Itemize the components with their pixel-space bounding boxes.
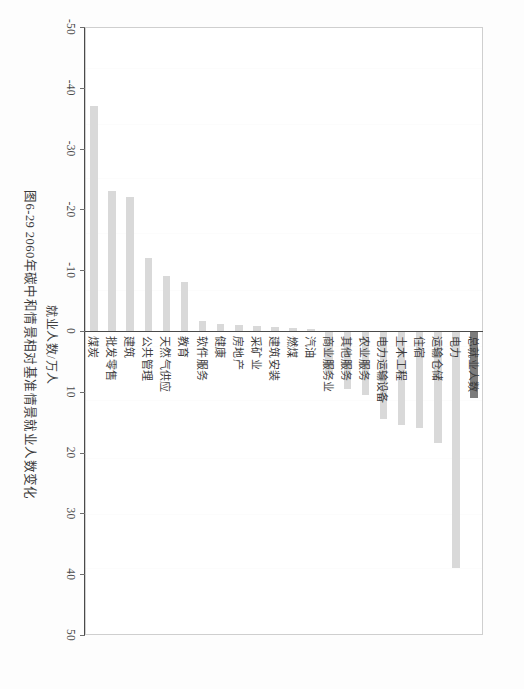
category-label-10: 燃煤 [285,336,301,359]
axis-tick-label-2: 30 [65,493,77,533]
axis-tick-label-0: 50 [65,615,77,655]
category-label-8: 商业服务业 [321,336,337,393]
axis-tick-label-1: 40 [65,554,77,594]
axis-tick-label-6: -10 [65,250,77,290]
bar-21 [90,106,98,331]
bar-1 [452,331,460,568]
axis-title: 就业人数/万人 [43,25,61,665]
bar-13 [235,324,243,330]
category-label-21: 煤炭 [86,336,102,359]
axis-tick-6 [80,270,85,271]
bar-20 [108,191,116,331]
category-label-4: 土木工程 [394,336,410,381]
category-label-7: 其他服务 [339,336,355,381]
axis-tick-label-9: -40 [65,67,77,107]
axis-tick-5 [80,331,85,332]
category-label-13: 房地产 [231,336,247,370]
axis-tick-4 [80,391,85,392]
category-label-15: 软件服务 [195,336,211,381]
category-label-19: 建筑 [122,336,138,359]
axis-tick-10 [80,27,85,28]
axis-tick-label-10: -50 [65,7,77,47]
bar-12 [253,326,261,331]
zero-line [85,331,483,332]
rotated-figure-stage: 50403020100-10-20-30-40-50 总就业人数电力运输仓储住宿… [27,25,497,665]
axis-tick-2 [80,513,85,514]
category-label-14: 健康 [213,336,229,359]
bar-chart-figure: 50403020100-10-20-30-40-50 总就业人数电力运输仓储住宿… [27,25,497,665]
category-label-18: 公共管理 [140,336,156,381]
bar-19 [126,197,134,331]
axis-tick-label-5: 0 [65,311,77,351]
category-label-11: 建筑安装 [267,336,283,381]
bar-14 [217,323,225,330]
axis-tick-9 [80,87,85,88]
figure-caption: 图6-29 2060年碳中和情景相对基准情景就业人数变化 [22,25,41,665]
axis-tick-label-7: -20 [65,189,77,229]
category-label-17: 天然气供应 [158,336,174,393]
axis-tick-1 [80,574,85,575]
bar-16 [181,282,189,331]
category-label-5: 电力运输设备 [376,336,392,404]
axis-tick-3 [80,452,85,453]
category-label-0: 总就业人数 [466,336,482,393]
figure-page: 50403020100-10-20-30-40-50 总就业人数电力运输仓储住宿… [0,0,524,689]
category-label-3: 住宿 [412,336,428,359]
category-label-1: 电力 [448,336,464,359]
axis-tick-label-3: 20 [65,432,77,472]
bar-17 [163,276,171,331]
bar-11 [271,327,279,331]
axis-tick-label-4: 10 [65,371,77,411]
category-label-9: 汽油 [303,336,319,359]
axis-tick-0 [80,635,85,636]
category-label-6: 农业服务 [357,336,373,381]
axis-tick-7 [80,209,85,210]
category-label-12: 采矿业 [249,336,265,370]
category-label-20: 批发零售 [104,336,120,381]
axis-tick-label-8: -30 [65,128,77,168]
bar-18 [145,258,153,331]
axis-tick-8 [80,148,85,149]
category-label-16: 教育 [177,336,193,359]
category-label-2: 运输仓储 [430,336,446,381]
bar-15 [199,321,207,331]
